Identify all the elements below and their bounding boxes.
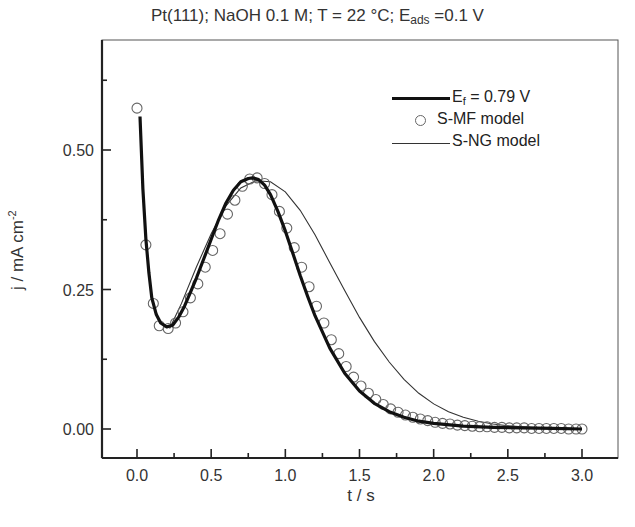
legend-label: S-MF model [437, 110, 524, 128]
thick-line-icon [392, 97, 450, 100]
y-tick-label: 0.50 [63, 142, 94, 159]
x-tick-label: 3.0 [571, 467, 593, 484]
smf-marker [215, 229, 225, 239]
x-tick-label: 2.5 [497, 467, 519, 484]
x-axis-label: t / s [0, 486, 635, 506]
legend-label: S-NG model [452, 132, 540, 150]
smf-marker [132, 103, 142, 113]
chart-plot-area: 0.00.51.01.52.02.53.00.000.250.50 [0, 0, 635, 527]
plot-frame [102, 40, 618, 458]
y-tick-label: 0.00 [63, 421, 94, 438]
legend-label: Ef = 0.79 V [452, 88, 530, 107]
thin-line-icon [392, 143, 450, 144]
x-tick-label: 1.0 [274, 467, 296, 484]
x-tick-label: 1.5 [348, 467, 370, 484]
x-tick-label: 2.0 [423, 467, 445, 484]
chart-title: Pt(111); NaOH 0.1 M; T = 22 °C; Eads =0.… [0, 6, 635, 27]
y-tick-label: 0.25 [63, 282, 94, 299]
x-tick-label: 0.5 [200, 467, 222, 484]
experiment-line [140, 117, 582, 430]
x-tick-label: 0.0 [126, 467, 148, 484]
y-axis-label: j / mA cm-2 [6, 210, 28, 290]
